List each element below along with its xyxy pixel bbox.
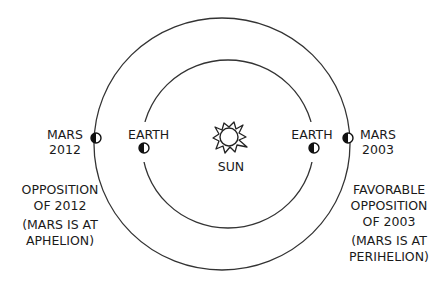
sun-icon	[213, 122, 247, 153]
caption-line: PERIHELION)	[343, 249, 435, 265]
caption-line: APHELION)	[14, 233, 106, 249]
caption-line: OF 2012	[14, 198, 106, 214]
mars-2003-label: MARS 2003	[356, 127, 400, 157]
caption-line: OPPOSITION	[343, 198, 435, 214]
mars-label-line: MARS	[356, 127, 400, 142]
sun-label: SUN	[214, 159, 248, 174]
earth-left-icon	[139, 143, 149, 153]
earth-orbit	[142, 60, 314, 228]
mars-2012-icon	[91, 133, 101, 143]
caption-line: FAVORABLE	[343, 182, 435, 198]
mars-year-line: 2003	[356, 142, 400, 157]
earth-left-label: EARTH	[128, 127, 168, 142]
earth-right-icon	[309, 143, 319, 153]
caption-line: OPPOSITION	[14, 182, 106, 198]
caption-favorable-opposition-2003: FAVORABLE OPPOSITION OF 2003 (MARS IS AT…	[343, 182, 435, 265]
caption-line: OF 2003	[343, 214, 435, 230]
mars-2003-icon	[343, 133, 353, 143]
earth-right-label: EARTH	[290, 127, 334, 142]
caption-opposition-2012: OPPOSITION OF 2012 (MARS IS AT APHELION)	[14, 182, 106, 249]
caption-line: (MARS IS AT	[14, 217, 106, 233]
mars-2012-label: MARS 2012	[43, 127, 87, 157]
caption-line: (MARS IS AT	[343, 233, 435, 249]
mars-year-line: 2012	[43, 142, 87, 157]
mars-label-line: MARS	[43, 127, 87, 142]
